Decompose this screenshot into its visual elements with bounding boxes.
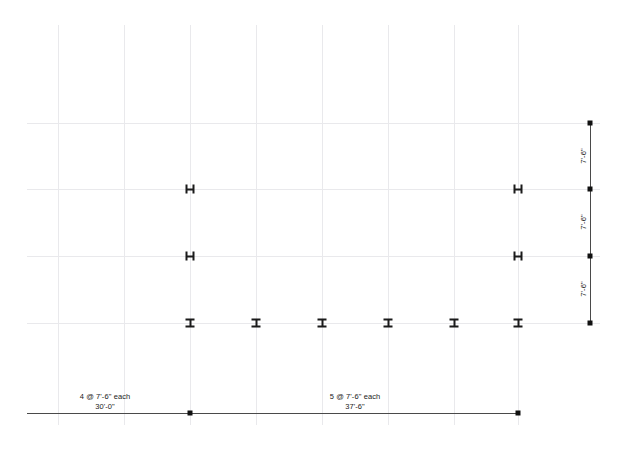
- dimension-line-vertical: [590, 123, 591, 323]
- column-web: [515, 188, 522, 190]
- column-marker-icon: [252, 319, 261, 328]
- column-web: [515, 255, 522, 257]
- dimension-label-vertical: 7'-6": [579, 148, 588, 163]
- column-web: [321, 320, 323, 327]
- grid-line-vertical: [124, 25, 125, 425]
- column-marker-icon: [384, 319, 393, 328]
- dimension-line-horizontal: [27, 413, 518, 414]
- grid-line-vertical: [256, 25, 257, 425]
- grid-line-vertical: [518, 25, 519, 425]
- column-web: [387, 320, 389, 327]
- dimension-label-spacing: 4 @ 7'-6" each: [80, 392, 131, 401]
- dimension-point: [588, 187, 593, 192]
- dimension-label-vertical: 7'-6": [579, 214, 588, 229]
- column-marker-icon: [514, 319, 523, 328]
- dimension-point: [588, 321, 593, 326]
- dimension-label-total: 30'-0": [95, 402, 115, 411]
- column-marker-icon: [514, 252, 523, 261]
- column-marker-icon: [186, 252, 195, 261]
- grid-line-vertical: [190, 25, 191, 425]
- dimension-point: [588, 254, 593, 259]
- column-web: [189, 320, 191, 327]
- drawing-sheet: 4 @ 7'-6" each30'-0"5 @ 7'-6" each37'-6"…: [0, 0, 627, 452]
- column-marker-icon: [450, 319, 459, 328]
- column-marker-icon: [514, 185, 523, 194]
- dimension-point: [188, 411, 193, 416]
- column-marker-icon: [186, 185, 195, 194]
- grid-line-vertical: [454, 25, 455, 425]
- dimension-label-vertical: 7'-6": [579, 281, 588, 296]
- dimension-point: [516, 411, 521, 416]
- grid-line-horizontal: [27, 123, 600, 124]
- dimension-label-spacing: 5 @ 7'-6" each: [330, 392, 381, 401]
- column-web: [453, 320, 455, 327]
- grid-line-vertical: [388, 25, 389, 425]
- column-web: [517, 320, 519, 327]
- column-web: [187, 255, 194, 257]
- grid-line-vertical: [58, 25, 59, 425]
- dimension-point: [588, 121, 593, 126]
- column-web: [255, 320, 257, 327]
- dimension-label-total: 37'-6": [345, 402, 365, 411]
- grid-line-vertical: [322, 25, 323, 425]
- column-web: [187, 188, 194, 190]
- column-marker-icon: [186, 319, 195, 328]
- column-marker-icon: [318, 319, 327, 328]
